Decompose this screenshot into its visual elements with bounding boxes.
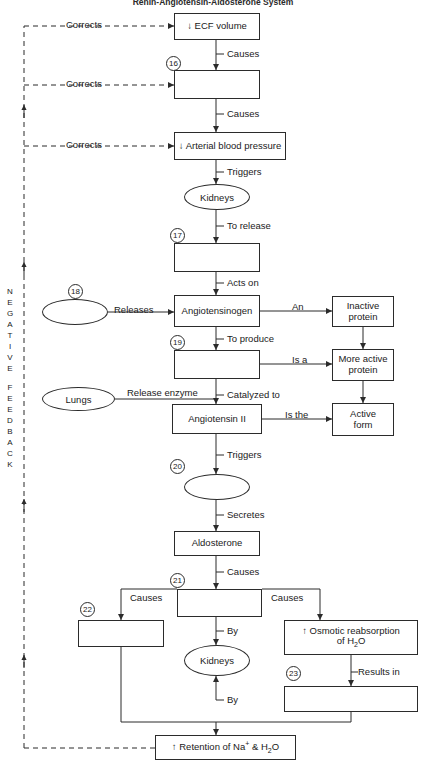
node-osmotic-reabsorption[interactable]: ↑ Osmotic reabsorptionof H2O <box>284 620 418 655</box>
feedback-letter: C <box>4 448 16 459</box>
edge-label-results-in: Results in <box>358 666 400 677</box>
node-ecf-volume[interactable]: ↓ ECF volume <box>174 13 260 40</box>
edge-label-corrects-1: Corrects <box>66 19 102 30</box>
feedback-letter: A <box>4 319 16 330</box>
feedback-letter: A <box>4 437 16 448</box>
feedback-letter: E <box>4 363 16 374</box>
edge-label-triggers-1: Triggers <box>227 166 262 177</box>
feedback-letter: E <box>4 297 16 308</box>
feedback-letter: G <box>4 308 16 319</box>
edge-label-to-produce: To produce <box>227 333 274 344</box>
edge-label-corrects-3: Corrects <box>66 139 102 150</box>
node-inactive-protein-label: Inactiveprotein <box>347 301 380 323</box>
node-blank-19[interactable] <box>174 350 260 379</box>
edge-label-to-release: To release <box>227 220 271 231</box>
node-kidneys-top-label: Kidneys <box>200 192 234 203</box>
feedback-letter: E <box>4 404 16 415</box>
edge-label-by-2: By <box>227 694 238 705</box>
feedback-letter: V <box>4 352 16 363</box>
edge-label-corrects-2: Corrects <box>66 78 102 89</box>
node-osmotic-reabsorption-label: ↑ Osmotic reabsorptionof H2O <box>302 626 400 650</box>
node-blank-18[interactable] <box>42 299 108 325</box>
edge-label-is-the: Is the <box>285 409 308 420</box>
edge-label-causes-left: Causes <box>130 592 162 603</box>
node-blank-20[interactable] <box>184 474 250 500</box>
feedback-letter: N <box>4 286 16 297</box>
number-bubble-21: 21 <box>170 573 185 588</box>
edge-label-triggers-2: Triggers <box>227 449 262 460</box>
node-retention[interactable]: ↑ Retention of Na+ & H2O <box>155 735 296 760</box>
node-blank-17[interactable] <box>174 243 260 272</box>
edge-label-acts-on: Acts on <box>227 277 259 288</box>
edge-label-release-enzyme: Release enzyme <box>127 387 198 398</box>
number-bubble-18: 18 <box>68 284 83 299</box>
page-title: Renin-Angiotensin-Aldosterone System <box>0 0 426 7</box>
number-bubble-20: 20 <box>170 459 185 474</box>
node-aldosterone-label: Aldosterone <box>192 538 243 549</box>
node-retention-label: ↑ Retention of Na+ & H2O <box>172 740 279 755</box>
node-active-form-label: Activeform <box>350 409 376 431</box>
edge-label-secretes: Secretes <box>227 509 265 520</box>
feedback-letter: F <box>4 382 16 393</box>
node-lungs-label: Lungs <box>66 394 92 405</box>
number-bubble-19: 19 <box>170 335 185 350</box>
feedback-letter: K <box>4 459 16 470</box>
number-bubble-23: 23 <box>286 666 301 681</box>
node-kidneys-bottom[interactable]: Kidneys <box>184 645 250 676</box>
node-angiotensin-ii[interactable]: Angiotensin II <box>172 404 262 434</box>
edge-label-causes-1: Causes <box>227 48 259 59</box>
negative-feedback-label: N E G A T I V E F E E D B A C K <box>4 286 16 470</box>
feedback-letter: T <box>4 330 16 341</box>
edge-label-releases: Releases <box>114 304 154 315</box>
edge-label-by-1: By <box>227 625 238 636</box>
edge-label-is-a: Is a <box>292 354 307 365</box>
node-angiotensinogen[interactable]: Angiotensinogen <box>174 295 260 327</box>
feedback-letter: E <box>4 393 16 404</box>
node-kidneys-bottom-label: Kidneys <box>200 655 234 666</box>
number-bubble-17: 17 <box>170 228 185 243</box>
node-angiotensin-ii-label: Angiotensin II <box>188 414 246 425</box>
edge-label-causes-2: Causes <box>227 108 259 119</box>
feedback-letter: B <box>4 426 16 437</box>
node-blank-21[interactable] <box>177 589 262 617</box>
feedback-gap <box>4 374 16 382</box>
number-bubble-16: 16 <box>166 56 181 71</box>
node-aldosterone[interactable]: Aldosterone <box>174 531 260 556</box>
node-arterial-blood-pressure[interactable]: ↓ Arterial blood pressure <box>174 132 286 160</box>
edge-label-catalyzed-to: Catalyzed to <box>227 389 280 400</box>
edge-label-causes-3: Causes <box>227 566 259 577</box>
node-blank-16[interactable] <box>174 70 260 99</box>
node-blank-22[interactable] <box>78 620 164 647</box>
node-more-active-protein[interactable]: More activeprotein <box>332 349 394 381</box>
node-inactive-protein[interactable]: Inactiveprotein <box>332 296 394 327</box>
node-active-form[interactable]: Activeform <box>332 403 394 436</box>
node-blank-23[interactable] <box>284 686 418 712</box>
node-lungs[interactable]: Lungs <box>42 387 115 411</box>
number-bubble-22: 22 <box>80 602 95 617</box>
node-kidneys-top[interactable]: Kidneys <box>184 184 250 210</box>
node-more-active-protein-label: More activeprotein <box>338 354 387 376</box>
feedback-letter: D <box>4 415 16 426</box>
node-ecf-volume-label: ↓ ECF volume <box>187 21 247 32</box>
flowchart-canvas: Renin-Angiotensin-Aldosterone System <box>0 0 426 765</box>
edge-label-causes-right: Causes <box>271 592 303 603</box>
feedback-letter: I <box>4 341 16 352</box>
node-angiotensinogen-label: Angiotensinogen <box>182 306 253 317</box>
edge-label-an: An <box>292 301 304 312</box>
node-arterial-blood-pressure-label: ↓ Arterial blood pressure <box>179 141 281 152</box>
